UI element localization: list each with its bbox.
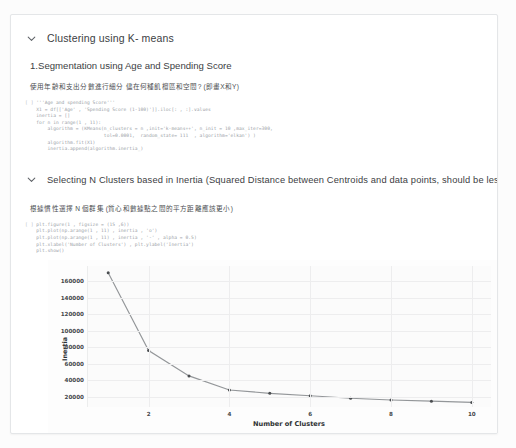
chart-y-tick-label: 100000 [61,328,84,334]
code-cell-source[interactable]: plt.figure(1 , figsize = (15 ,6)) plt.pl… [25,222,197,253]
chart-x-axis-title: Number of Clusters [253,420,325,428]
chevron-down-icon[interactable] [25,32,38,45]
chart-y-tick-label: 140000 [61,295,84,301]
chart-data-point [188,374,191,377]
section1-title: Clustering using K- means [47,32,174,44]
code-cell-prompt[interactable]: [ ] [25,100,33,105]
code-cell-plot[interactable]: [ ] plt.figure(1 , figsize = (15 ,6)) pl… [11,222,497,255]
chart-x-tick-label: 2 [147,411,151,417]
chart-x-tick-label: 6 [308,411,312,417]
chart-y-tick-label: 80000 [65,344,84,350]
notebook-page: Clustering using K- means 1.Segmentation… [0,0,516,448]
chart-data-point [430,400,433,403]
chart-data-point [268,392,271,395]
section2-title: Selecting N Clusters based in Inertia (S… [47,175,498,185]
chart-gridline-vertical [149,266,150,407]
chart-y-tick-label: 20000 [65,394,84,400]
chart-gridline-vertical [391,266,392,407]
code-cell-source[interactable]: '''Age and spending Score''' X1 = df[['A… [25,100,273,151]
section2-description-cjk: 根據慣性選擇 N 個群集 (質心和數據點之間的平方距離應該更小) [11,203,497,213]
chart-y-tick-label: 160000 [61,278,84,284]
chart-y-tick-label: 40000 [65,377,84,383]
chart-y-tick-label: 60000 [65,361,84,367]
section1-subheading: 1.Segmentation using Age and Spending Sc… [11,60,497,71]
chart-line-inertia [108,273,472,403]
chart-data-point [107,271,110,274]
chart-gridline-vertical [229,266,230,407]
chart-gridline-vertical [472,266,473,407]
section1-description-cjk: 使用年齡和支出分數進行細分 儘在何種飢檀區和空間? (即畫X和Y) [11,81,497,91]
notebook-card: Clustering using K- means 1.Segmentation… [10,14,498,434]
chart-plot-area: 2000040000600008000010000012000014000016… [87,266,491,407]
section-header-selecting-n[interactable]: Selecting N Clusters based in Inertia (S… [11,167,497,193]
chart-y-tick-label: 120000 [61,311,84,317]
section-header-clustering[interactable]: Clustering using K- means [11,25,497,51]
chart-x-tick-label: 8 [389,411,393,417]
code-cell-kmeans[interactable]: [ ] '''Age and spending Score''' X1 = df… [11,100,497,153]
chart-x-tick-label: 4 [227,411,231,417]
chart-gridline-vertical [310,266,311,407]
chart-figure: Inertia Number of Clusters 2000040000600… [48,260,498,434]
chevron-down-icon[interactable] [25,173,38,186]
chart-x-tick-label: 10 [468,411,476,417]
code-cell-prompt[interactable]: [ ] [25,222,33,227]
